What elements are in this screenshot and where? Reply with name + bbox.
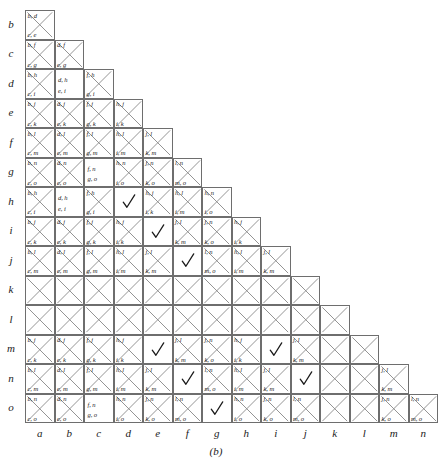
matrix-cell-g-f[interactable]: l, nm, o — [173, 158, 203, 188]
matrix-cell-m-e[interactable] — [143, 335, 173, 365]
matrix-cell-n-m[interactable]: j, lk, m — [379, 364, 409, 394]
matrix-cell-n-f[interactable] — [173, 364, 203, 394]
matrix-cell-l-k[interactable] — [320, 305, 350, 335]
matrix-cell-n-l[interactable] — [350, 364, 380, 394]
matrix-cell-k-j[interactable] — [291, 276, 321, 306]
matrix-cell-m-j[interactable]: j, lk, m — [291, 335, 321, 365]
matrix-cell-e-c[interactable]: f, jg, k — [84, 99, 114, 129]
matrix-cell-k-c[interactable] — [84, 276, 114, 306]
matrix-cell-k-a[interactable] — [25, 276, 55, 306]
matrix-cell-o-e[interactable]: j, nk, o — [143, 394, 173, 424]
matrix-cell-h-f[interactable]: h, li, m — [173, 187, 203, 217]
matrix-cell-l-g[interactable] — [202, 305, 232, 335]
matrix-cell-l-b[interactable] — [55, 305, 85, 335]
matrix-cell-n-g[interactable]: l, nm, o — [202, 364, 232, 394]
matrix-cell-n-j[interactable] — [291, 364, 321, 394]
matrix-cell-m-h[interactable]: h, ji, k — [232, 335, 262, 365]
matrix-cell-n-h[interactable]: h, li, m — [232, 364, 262, 394]
matrix-cell-h-d[interactable] — [114, 187, 144, 217]
matrix-cell-l-c[interactable] — [84, 305, 114, 335]
matrix-cell-m-f[interactable]: j, lk, m — [173, 335, 203, 365]
matrix-cell-i-d[interactable]: h, ji, k — [114, 217, 144, 247]
matrix-cell-h-a[interactable]: b, hc, i — [25, 187, 55, 217]
matrix-cell-n-b[interactable]: d, le, m — [55, 364, 85, 394]
matrix-cell-e-d[interactable]: h, ji, k — [114, 99, 144, 129]
matrix-cell-o-l[interactable] — [350, 394, 380, 424]
matrix-cell-m-b[interactable]: d, je, k — [55, 335, 85, 365]
matrix-cell-k-e[interactable] — [143, 276, 173, 306]
matrix-cell-n-i[interactable]: j, lk, m — [261, 364, 291, 394]
matrix-cell-g-a[interactable]: b, nc, o — [25, 158, 55, 188]
matrix-cell-g-b[interactable]: d, ne, o — [55, 158, 85, 188]
matrix-cell-h-g[interactable]: h, ni, o — [202, 187, 232, 217]
matrix-cell-j-a[interactable]: b, lc, m — [25, 246, 55, 276]
matrix-cell-o-m[interactable]: j, nk, o — [379, 394, 409, 424]
matrix-cell-l-e[interactable] — [143, 305, 173, 335]
matrix-cell-g-c[interactable]: f, ng, o — [84, 158, 114, 188]
matrix-cell-m-l[interactable] — [350, 335, 380, 365]
matrix-cell-g-d[interactable]: h, ni, o — [114, 158, 144, 188]
matrix-cell-h-c[interactable]: f, hg, i — [84, 187, 114, 217]
matrix-cell-f-e[interactable]: j, lk, m — [143, 128, 173, 158]
matrix-cell-k-f[interactable] — [173, 276, 203, 306]
matrix-cell-n-c[interactable]: f, lg, m — [84, 364, 114, 394]
matrix-cell-o-a[interactable]: b, nc, o — [25, 394, 55, 424]
matrix-cell-o-i[interactable]: j, nk, o — [261, 394, 291, 424]
matrix-cell-k-b[interactable] — [55, 276, 85, 306]
matrix-cell-e-b[interactable]: d, je, k — [55, 99, 85, 129]
matrix-cell-o-j[interactable]: l, nm, o — [291, 394, 321, 424]
matrix-cell-i-b[interactable]: d, je, k — [55, 217, 85, 247]
matrix-cell-d-b[interactable]: d, he, i — [55, 69, 85, 99]
matrix-cell-k-d[interactable] — [114, 276, 144, 306]
matrix-cell-d-a[interactable]: b, hc, i — [25, 69, 55, 99]
matrix-cell-i-e[interactable] — [143, 217, 173, 247]
matrix-cell-f-a[interactable]: b, lc, m — [25, 128, 55, 158]
matrix-cell-b-a[interactable]: b, dc, e — [25, 10, 55, 40]
matrix-cell-m-c[interactable]: f, jg, k — [84, 335, 114, 365]
matrix-cell-f-c[interactable]: f, lg, m — [84, 128, 114, 158]
matrix-cell-j-c[interactable]: f, lg, m — [84, 246, 114, 276]
matrix-cell-d-c[interactable]: f, hg, i — [84, 69, 114, 99]
matrix-cell-o-k[interactable] — [320, 394, 350, 424]
matrix-cell-l-j[interactable] — [291, 305, 321, 335]
matrix-cell-k-h[interactable] — [232, 276, 262, 306]
matrix-cell-j-f[interactable] — [173, 246, 203, 276]
matrix-cell-f-d[interactable]: h, li, m — [114, 128, 144, 158]
matrix-cell-o-c[interactable]: f, ng, o — [84, 394, 114, 424]
matrix-cell-i-g[interactable]: j, nk, o — [202, 217, 232, 247]
matrix-cell-m-a[interactable]: b, jc, k — [25, 335, 55, 365]
matrix-cell-o-d[interactable]: h, ni, o — [114, 394, 144, 424]
matrix-cell-n-a[interactable]: b, lc, m — [25, 364, 55, 394]
matrix-cell-j-h[interactable]: h, li, m — [232, 246, 262, 276]
matrix-cell-m-d[interactable]: h, ji, k — [114, 335, 144, 365]
matrix-cell-o-f[interactable]: l, nm, o — [173, 394, 203, 424]
matrix-cell-c-b[interactable]: d, fe, g — [55, 40, 85, 70]
matrix-cell-j-d[interactable]: h, li, m — [114, 246, 144, 276]
matrix-cell-c-a[interactable]: b, fc, g — [25, 40, 55, 70]
matrix-cell-l-a[interactable] — [25, 305, 55, 335]
matrix-cell-i-a[interactable]: b, jc, k — [25, 217, 55, 247]
matrix-cell-n-d[interactable]: h, li, m — [114, 364, 144, 394]
matrix-cell-m-g[interactable]: j, nk, o — [202, 335, 232, 365]
matrix-cell-l-i[interactable] — [261, 305, 291, 335]
matrix-cell-i-f[interactable]: j, lk, m — [173, 217, 203, 247]
matrix-cell-o-b[interactable]: d, ne, o — [55, 394, 85, 424]
matrix-cell-k-g[interactable] — [202, 276, 232, 306]
matrix-cell-g-e[interactable]: j, nk, o — [143, 158, 173, 188]
matrix-cell-o-h[interactable]: h, ni, o — [232, 394, 262, 424]
matrix-cell-l-h[interactable] — [232, 305, 262, 335]
matrix-cell-h-e[interactable]: h, ji, k — [143, 187, 173, 217]
matrix-cell-o-n[interactable]: l, nm, o — [409, 394, 438, 424]
matrix-cell-e-a[interactable]: b, jc, k — [25, 99, 55, 129]
matrix-cell-j-i[interactable]: j, lk, m — [261, 246, 291, 276]
matrix-cell-n-e[interactable]: j, lk, m — [143, 364, 173, 394]
matrix-cell-m-i[interactable] — [261, 335, 291, 365]
matrix-cell-l-d[interactable] — [114, 305, 144, 335]
matrix-cell-o-g[interactable] — [202, 394, 232, 424]
matrix-cell-k-i[interactable] — [261, 276, 291, 306]
matrix-cell-n-k[interactable] — [320, 364, 350, 394]
matrix-cell-h-b[interactable]: d, he, i — [55, 187, 85, 217]
matrix-cell-l-f[interactable] — [173, 305, 203, 335]
matrix-cell-f-b[interactable]: d, le, m — [55, 128, 85, 158]
matrix-cell-j-g[interactable]: l, nm, o — [202, 246, 232, 276]
